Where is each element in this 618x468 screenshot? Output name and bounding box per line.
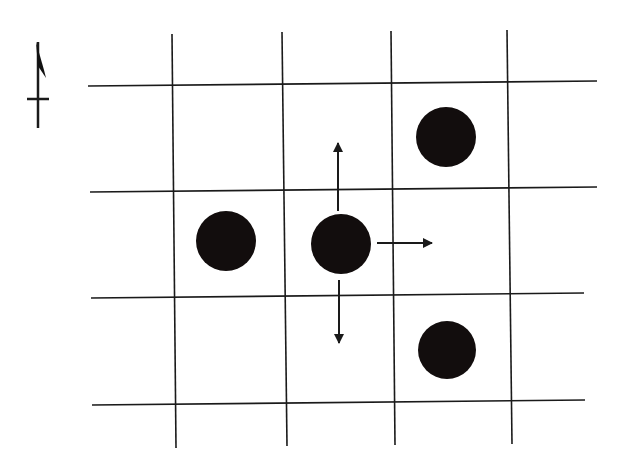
grid-line-horizontal-1 [88, 81, 597, 86]
grid-line-vertical-4 [507, 30, 512, 444]
grid-dots [196, 107, 476, 379]
north-arrow-icon [27, 42, 49, 128]
dot-lower-right [418, 321, 476, 379]
grid-line-vertical-1 [172, 34, 176, 448]
grid-line-horizontal-2 [90, 187, 597, 192]
dot-center [311, 214, 371, 274]
dot-upper-right [416, 107, 476, 167]
grid-diagram [0, 0, 618, 468]
grid-line-vertical-2 [282, 32, 287, 446]
grid-line-vertical-3 [391, 31, 395, 445]
dot-left [196, 211, 256, 271]
